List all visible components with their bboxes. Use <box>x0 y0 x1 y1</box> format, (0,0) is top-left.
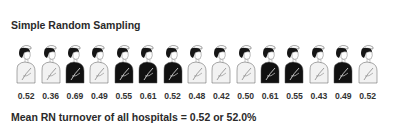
nurse-figure: 0.55 <box>112 40 136 101</box>
nurse-figure: 0.61 <box>258 40 282 101</box>
turnover-value: 0.52 <box>359 91 376 101</box>
nurse-icon <box>307 40 331 88</box>
nurse-figure: 0.49 <box>87 40 111 101</box>
turnover-value: 0.50 <box>237 91 254 101</box>
nurse-icon <box>234 40 258 88</box>
nurse-icon <box>112 40 136 88</box>
turnover-value: 0.52 <box>18 91 35 101</box>
turnover-value: 0.61 <box>262 91 279 101</box>
nurse-figure: 0.69 <box>63 40 87 101</box>
turnover-value: 0.52 <box>164 91 181 101</box>
nurse-figure: 0.61 <box>136 40 160 101</box>
nurse-icon <box>87 40 111 88</box>
nurse-icon <box>282 40 306 88</box>
turnover-value: 0.49 <box>91 91 108 101</box>
turnover-value: 0.48 <box>189 91 206 101</box>
nurse-icon <box>136 40 160 88</box>
nurse-figure: 0.42 <box>209 40 233 101</box>
nurse-icon <box>185 40 209 88</box>
turnover-value: 0.43 <box>311 91 328 101</box>
nurse-icon <box>331 40 355 88</box>
nurse-figure: 0.48 <box>185 40 209 101</box>
turnover-value: 0.69 <box>67 91 84 101</box>
nurse-figure-row: 0.520.360.690.490.550.610.520.480.420.50… <box>14 40 380 101</box>
turnover-value: 0.61 <box>140 91 157 101</box>
nurse-figure: 0.50 <box>234 40 258 101</box>
nurse-icon <box>39 40 63 88</box>
nurse-figure: 0.55 <box>282 40 306 101</box>
turnover-value: 0.55 <box>115 91 132 101</box>
nurse-icon <box>209 40 233 88</box>
turnover-value: 0.49 <box>335 91 352 101</box>
nurse-icon <box>14 40 38 88</box>
turnover-value: 0.42 <box>213 91 230 101</box>
nurse-figure: 0.52 <box>160 40 184 101</box>
turnover-value: 0.55 <box>286 91 303 101</box>
nurse-figure: 0.43 <box>307 40 331 101</box>
mean-summary: Mean RN turnover of all hospitals = 0.52… <box>11 111 256 123</box>
nurse-icon <box>258 40 282 88</box>
nurse-icon <box>63 40 87 88</box>
nurse-icon <box>356 40 380 88</box>
nurse-icon <box>161 40 185 88</box>
nurse-figure: 0.52 <box>355 40 379 101</box>
diagram-title: Simple Random Sampling <box>11 19 141 31</box>
turnover-value: 0.36 <box>42 91 59 101</box>
nurse-figure: 0.52 <box>14 40 38 101</box>
nurse-figure: 0.49 <box>331 40 355 101</box>
nurse-figure: 0.36 <box>38 40 62 101</box>
